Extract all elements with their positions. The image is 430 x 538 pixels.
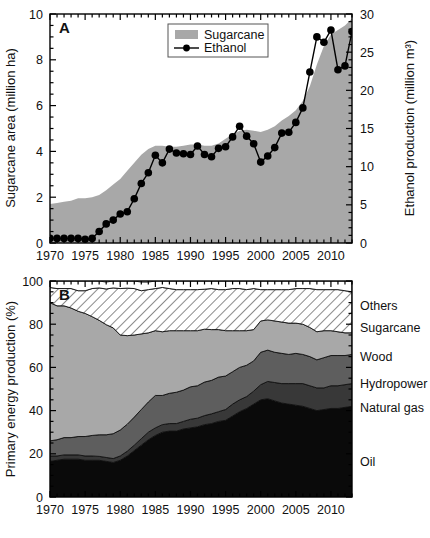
ethanol-data-point	[320, 38, 328, 46]
panel-a-ytick-label-right: 15	[360, 122, 374, 136]
ethanol-data-point	[123, 208, 131, 216]
ethanol-data-point	[243, 132, 251, 140]
series-label-hydropower: Hydropower	[360, 377, 427, 391]
ethanol-data-point	[208, 153, 216, 161]
stacked-band-group	[50, 281, 352, 497]
panel-b-xtick-label: 2010	[317, 503, 345, 517]
panel-b-xtick-label: 2005	[282, 503, 310, 517]
legend-label-ethanol: Ethanol	[204, 41, 246, 55]
panel-b-ylabel: Primary energy production (%)	[3, 301, 18, 477]
ethanol-data-point	[299, 104, 307, 112]
panel-b-xtick-label: 1980	[106, 503, 134, 517]
ethanol-data-point	[250, 140, 258, 148]
panel-a-ylabel-right: Ethanol production (million m³)	[402, 40, 417, 216]
ethanol-data-point	[201, 151, 209, 159]
panel-b-xtick-label: 2000	[247, 503, 275, 517]
panel-b-xtick-label: 1975	[71, 503, 99, 517]
panel-a-xtick-label: 1970	[36, 249, 64, 263]
ethanol-data-point	[236, 122, 244, 130]
ethanol-data-point	[285, 129, 293, 137]
ethanol-data-point	[173, 149, 181, 157]
ethanol-data-point	[278, 129, 286, 137]
ethanol-data-point	[180, 150, 188, 158]
panel-a-ytick-label-right: 0	[360, 237, 367, 251]
panel-a-xtick-label: 2005	[282, 249, 310, 263]
panel-b-ytick-label: 80	[29, 318, 43, 332]
panel-a-xtick-label: 1985	[141, 249, 169, 263]
panel-a-ytick-label-left: 8	[36, 53, 43, 67]
panel-b-xtick-label: 1995	[212, 503, 240, 517]
ethanol-data-point	[145, 169, 153, 177]
ethanol-data-point	[152, 151, 160, 159]
ethanol-data-point	[159, 159, 167, 167]
figure-svg: 1970197519801985199019952000200520100246…	[0, 0, 430, 538]
panel-a-ytick-label-left: 10	[29, 8, 43, 22]
panel-a-legend: Sugarcane Ethanol	[168, 24, 268, 57]
ethanol-data-point	[166, 145, 174, 153]
legend-label-sugarcane: Sugarcane	[204, 28, 265, 42]
figure-container: 1970197519801985199019952000200520100246…	[0, 0, 430, 538]
panel-b-xtick-label: 1990	[177, 503, 205, 517]
ethanol-data-point	[306, 68, 314, 76]
panel-a-xtick-label: 1990	[177, 249, 205, 263]
panel-a-xtick-label: 1975	[71, 249, 99, 263]
ethanol-data-point	[271, 144, 279, 152]
ethanol-data-point	[341, 62, 349, 70]
panel-a-label: A	[59, 19, 70, 36]
ethanol-data-point	[109, 216, 117, 224]
ethanol-data-point	[313, 33, 321, 41]
ethanol-data-point	[194, 142, 202, 150]
series-label-natural-gas: Natural gas	[360, 401, 424, 415]
panel-a-ytick-label-left: 2	[36, 191, 43, 205]
ethanol-data-point	[95, 228, 103, 236]
ethanol-data-point	[334, 66, 342, 74]
ethanol-data-point	[264, 152, 272, 160]
panel-a-ytick-label-right: 10	[360, 160, 374, 174]
panel-a-ytick-label-right: 5	[360, 198, 367, 212]
panel-a-ytick-label-left: 0	[36, 237, 43, 251]
panel-b-ytick-label: 20	[29, 447, 43, 461]
ethanol-data-point	[229, 133, 237, 141]
series-label-wood: Wood	[360, 350, 392, 364]
panel-a-ytick-label-left: 6	[36, 99, 43, 113]
panel-a-xtick-label: 1995	[212, 249, 240, 263]
panel-a-xtick-label: 2000	[247, 249, 275, 263]
panel-a-ytick-label-right: 25	[360, 46, 374, 60]
panel-b-ytick-label: 60	[29, 361, 43, 375]
ethanol-data-point	[116, 210, 124, 218]
ethanol-data-point	[327, 26, 335, 34]
ethanol-data-point	[138, 180, 146, 188]
ethanol-data-point	[257, 158, 265, 166]
ethanol-data-point	[102, 220, 110, 228]
panel-a-ytick-label-right: 30	[360, 8, 374, 22]
legend-marker-ethanol	[183, 45, 190, 52]
series-label-others: Others	[360, 299, 398, 313]
ethanol-data-point	[187, 151, 195, 159]
ethanol-data-point	[130, 195, 138, 203]
panel-a-ytick-label-right: 20	[360, 84, 374, 98]
panel-a-ytick-label-left: 4	[36, 145, 43, 159]
ethanol-data-point	[292, 119, 300, 127]
ethanol-data-point	[222, 143, 230, 151]
series-label-oil: Oil	[360, 455, 375, 469]
panel-a-xtick-label: 2010	[317, 249, 345, 263]
panel-b-label: B	[59, 286, 70, 303]
panel-b-plot-area	[50, 281, 352, 497]
panel-b-xtick-label: 1985	[141, 503, 169, 517]
ethanol-data-point	[215, 145, 223, 153]
legend-swatch-sugarcane	[175, 30, 198, 39]
panel-a-ylabel-left: Sugarcane area (million ha)	[3, 48, 18, 208]
panel-b-xtick-label: 1970	[36, 503, 64, 517]
series-label-sugarcane: Sugarcane	[360, 321, 421, 335]
panel-a-xtick-label: 1980	[106, 249, 134, 263]
panel-b-ytick-label: 100	[22, 275, 43, 289]
panel-b-ytick-label: 0	[36, 491, 43, 505]
panel-b-ytick-label: 40	[29, 404, 43, 418]
